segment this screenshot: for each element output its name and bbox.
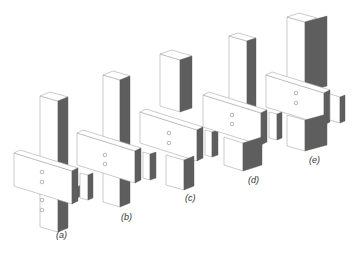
joint-diagram (0, 0, 362, 254)
label-d: (d) (248, 175, 259, 185)
label-b: (b) (121, 212, 132, 222)
label-a: (a) (56, 230, 67, 240)
label-c: (c) (185, 193, 196, 203)
label-e: (e) (309, 155, 320, 165)
